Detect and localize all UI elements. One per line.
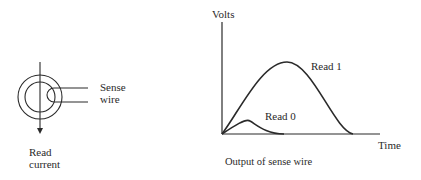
y-axis-label: Volts [212, 8, 234, 20]
read-current-label-line1: Read [29, 146, 52, 158]
graph-caption: Output of sense wire [225, 156, 312, 168]
read-0-curve [222, 120, 284, 134]
read-current-wire [37, 62, 43, 134]
read-1-label: Read 1 [311, 60, 342, 72]
diagram-canvas [0, 0, 421, 180]
read-0-label: Read 0 [265, 110, 296, 122]
read-current-label-line2: current [29, 158, 60, 170]
x-axis-label: Time [378, 139, 401, 151]
read-1-curve [222, 62, 353, 134]
graph-axes [222, 22, 380, 134]
sense-wire-label-line1: Sense [100, 81, 126, 93]
sense-wire-label-line2: wire [100, 93, 120, 105]
